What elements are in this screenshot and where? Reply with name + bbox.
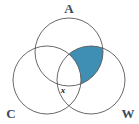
set-label-w: W [122, 106, 135, 121]
point-label-x: x [60, 85, 66, 95]
set-label-a: A [64, 1, 74, 16]
venn-diagram-svg: A C W x [0, 0, 139, 124]
venn-diagram-figure: A C W x [0, 0, 139, 124]
set-label-c: C [6, 106, 15, 121]
